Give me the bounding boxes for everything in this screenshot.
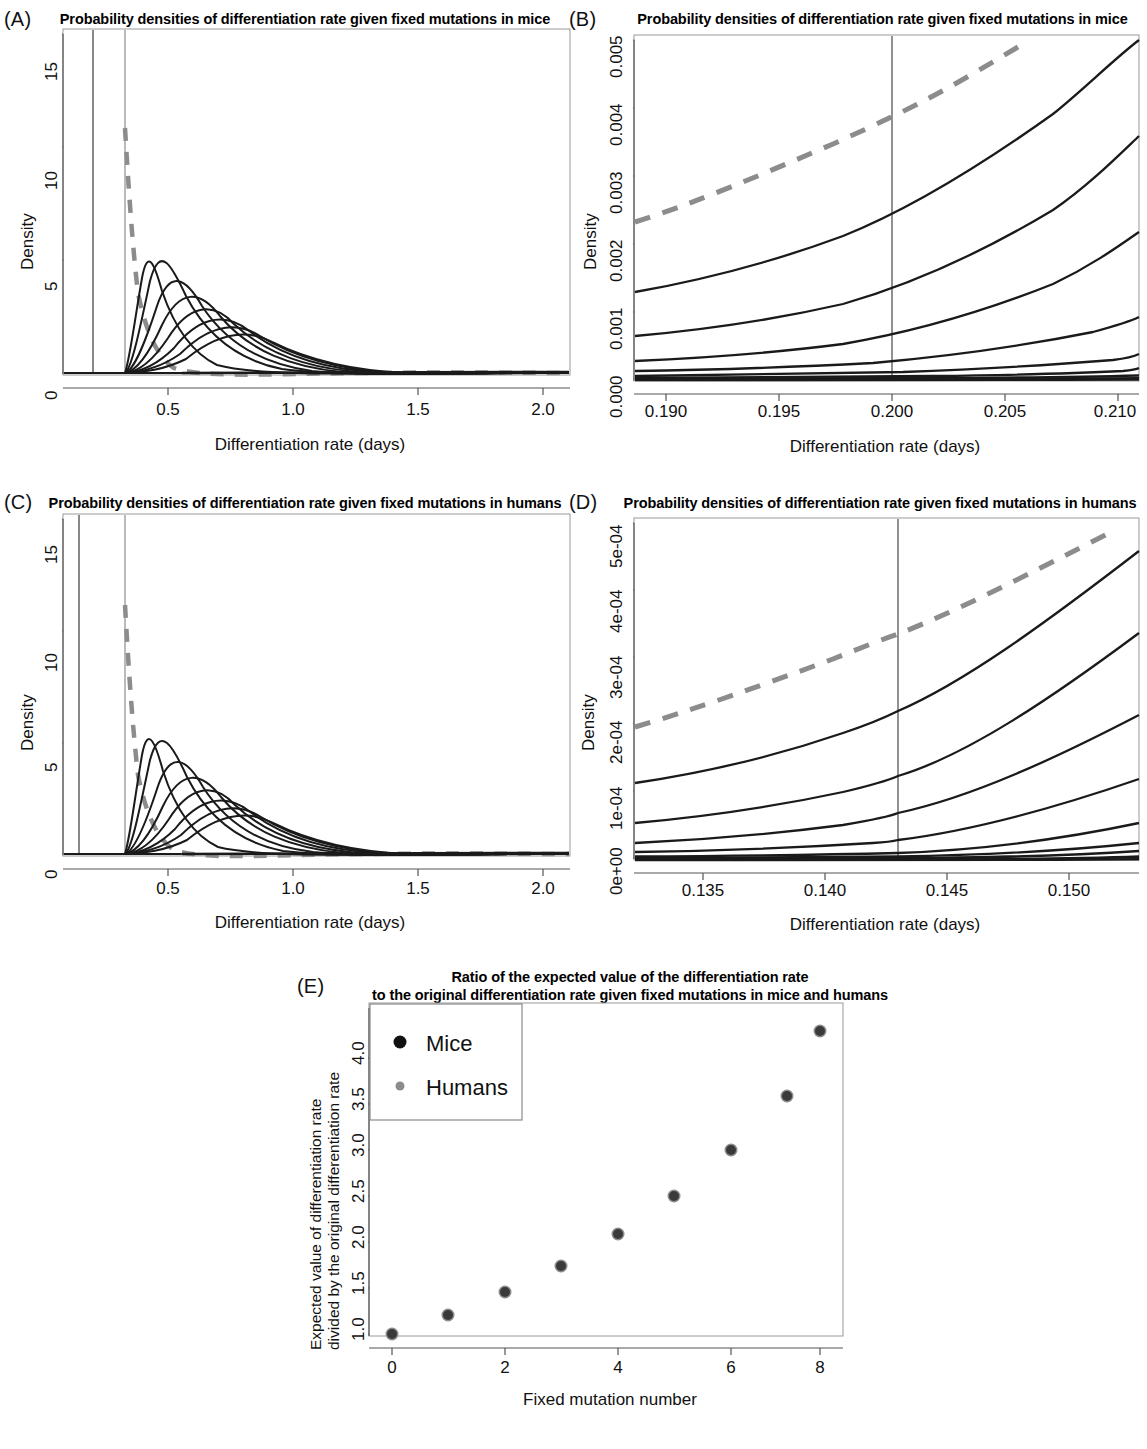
panel-c-xtick-2.0: 2.0 — [518, 879, 568, 899]
panel-b-ytick-0.004: 0.004 — [607, 103, 627, 146]
panel-b-x-axis-label: Differentiation rate (days) — [725, 437, 1045, 457]
panel-a-xtick-0.5: 0.5 — [143, 400, 193, 420]
panel-e-xtick-4: 4 — [593, 1358, 643, 1378]
panel-d-y-axis-label: Density — [579, 694, 599, 751]
panel-e-ytick-3.0: 3.0 — [349, 1133, 369, 1157]
panel-b-plot — [633, 34, 1141, 414]
panel-d-plot — [633, 517, 1141, 892]
panel-d-title: Probability densities of differentiation… — [615, 494, 1145, 512]
panel-e-title-line1: Ratio of the expected value of the diffe… — [360, 968, 900, 986]
panel-c: (C) Probability densities of differentia… — [0, 483, 573, 943]
legend-marker-mice — [394, 1036, 407, 1049]
panel-b-letter: (B) — [569, 8, 596, 31]
panel-b-ytick-0.003: 0.003 — [607, 171, 627, 214]
panel-d-ytick-4e04: 4e-04 — [607, 590, 627, 633]
panel-b-ytick-0.000: 0.000 — [607, 375, 627, 418]
panel-d-xtick-0.135: 0.135 — [668, 881, 738, 901]
panel-b: (B) Probability densities of differentia… — [565, 0, 1147, 480]
panel-c-ytick-0: 0 — [42, 870, 62, 879]
panel-e-x-axis-label: Fixed mutation number — [450, 1390, 770, 1410]
panel-b-ytick-0.002: 0.002 — [607, 239, 627, 282]
panel-d-x-axis-label: Differentiation rate (days) — [725, 915, 1045, 935]
panel-e-y-axis-label-line2: divided by the original differentiation … — [325, 1072, 343, 1350]
legend-label-mice: Mice — [426, 1031, 472, 1056]
panel-a-title: Probability densities of differentiation… — [45, 10, 565, 28]
panel-a-xtick-1.0: 1.0 — [268, 400, 318, 420]
panel-a-xtick-2.0: 2.0 — [518, 400, 568, 420]
panel-b-xtick-0.200: 0.200 — [857, 402, 927, 422]
panel-d-ytick-5e04: 5e-04 — [607, 525, 627, 568]
panel-c-letter: (C) — [4, 491, 32, 514]
panel-a-ytick-15: 15 — [42, 62, 62, 81]
panel-c-ytick-10: 10 — [42, 653, 62, 672]
panel-e-ytick-2.0: 2.0 — [349, 1225, 369, 1249]
panel-b-xtick-0.195: 0.195 — [744, 402, 814, 422]
panel-e-xtick-2: 2 — [480, 1358, 530, 1378]
panel-c-xtick-1.5: 1.5 — [393, 879, 443, 899]
panel-e-letter: (E) — [297, 975, 324, 998]
panel-e-xtick-0: 0 — [367, 1358, 417, 1378]
panel-a-xtick-1.5: 1.5 — [393, 400, 443, 420]
panel-b-y-axis-label: Density — [581, 213, 601, 270]
panel-e-ytick-1.0: 1.0 — [349, 1317, 369, 1341]
panel-d-xtick-0.145: 0.145 — [912, 881, 982, 901]
panel-a-letter: (A) — [4, 8, 31, 31]
panel-d-xtick-0.150: 0.150 — [1034, 881, 1104, 901]
panel-b-xtick-0.190: 0.190 — [631, 402, 701, 422]
panel-b-xtick-0.210: 0.210 — [1083, 402, 1147, 422]
panel-b-xtick-0.205: 0.205 — [970, 402, 1040, 422]
panel-b-title: Probability densities of differentiation… — [620, 10, 1145, 28]
panel-a: (A) Probability densities of differentia… — [0, 0, 573, 480]
panel-d-ytick-3e04: 3e-04 — [607, 656, 627, 699]
panel-d-letter: (D) — [569, 491, 597, 514]
panel-c-ytick-5: 5 — [42, 763, 62, 772]
panel-e-xtick-6: 6 — [706, 1358, 756, 1378]
panel-a-plot — [62, 28, 572, 408]
panel-b-ytick-0.001: 0.001 — [607, 307, 627, 350]
panel-a-ytick-5: 5 — [42, 282, 62, 291]
panel-c-xtick-1.0: 1.0 — [268, 879, 318, 899]
panel-c-plot — [62, 513, 572, 888]
panel-c-y-axis-label: Density — [18, 694, 38, 751]
panel-e-y-axis-label-line1: Expected value of differentiation rate — [307, 1099, 325, 1350]
panel-e-ytick-4.0: 4.0 — [349, 1041, 369, 1065]
panel-d-xtick-0.140: 0.140 — [790, 881, 860, 901]
legend-label-humans: Humans — [426, 1075, 508, 1100]
panel-d: (D) Probability densities of differentia… — [565, 483, 1147, 943]
panel-a-ytick-10: 10 — [42, 171, 62, 190]
panel-a-y-axis-label: Density — [18, 213, 38, 270]
panel-b-ytick-0.005: 0.005 — [607, 35, 627, 78]
panel-e-ytick-2.5: 2.5 — [349, 1179, 369, 1203]
panel-e-ytick-3.5: 3.5 — [349, 1087, 369, 1111]
panel-d-ytick-2e04: 2e-04 — [607, 721, 627, 764]
panel-e-xtick-8: 8 — [795, 1358, 845, 1378]
panel-a-ytick-0: 0 — [42, 391, 62, 400]
panel-d-ytick-1e04: 1e-04 — [607, 787, 627, 830]
panel-d-ytick-0e00: 0e+00 — [607, 847, 627, 895]
panel-c-ytick-15: 15 — [42, 545, 62, 564]
panel-c-xtick-0.5: 0.5 — [143, 879, 193, 899]
panel-a-x-axis-label: Differentiation rate (days) — [150, 435, 470, 455]
panel-e: (E) Ratio of the expected value of the d… — [0, 950, 1147, 1449]
panel-c-x-axis-label: Differentiation rate (days) — [150, 913, 470, 933]
legend-marker-humans — [396, 1082, 405, 1091]
legend: Mice Humans — [370, 1004, 522, 1120]
panel-e-ytick-1.5: 1.5 — [349, 1271, 369, 1295]
panel-c-title: Probability densities of differentiation… — [45, 494, 565, 512]
